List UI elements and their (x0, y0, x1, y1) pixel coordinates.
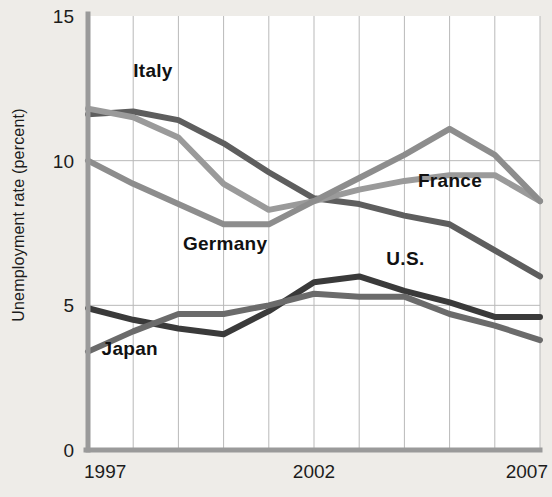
x-tick-label-2007: 2007 (506, 461, 548, 482)
series-label-france: France (418, 170, 482, 191)
unemployment-rate-line-chart: 051015199720022007Unemployment rate (per… (0, 0, 552, 497)
y-axis-title: Unemployment rate (percent) (10, 108, 27, 322)
y-tick-label-0: 0 (63, 440, 74, 461)
series-label-japan: Japan (102, 338, 158, 359)
series-label-italy: Italy (133, 60, 173, 81)
y-tick-label-5: 5 (63, 295, 74, 316)
series-label-u-s: U.S. (386, 248, 424, 269)
y-tick-label-10: 10 (53, 151, 74, 172)
series-label-germany: Germany (183, 233, 268, 254)
chart-canvas: 051015199720022007Unemployment rate (per… (0, 0, 552, 497)
x-tick-label-2002: 2002 (293, 461, 335, 482)
x-tick-label-1997: 1997 (84, 461, 126, 482)
y-tick-label-15: 15 (53, 6, 74, 27)
